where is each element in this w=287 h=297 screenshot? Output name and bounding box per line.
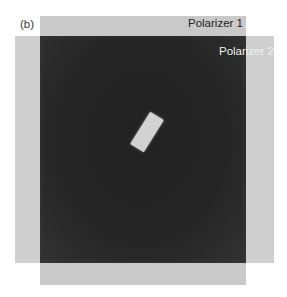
crossed-polarizers-figure: (b) Polarizer 1 Polarizer 2 (0, 0, 287, 297)
polarizer-1-label: Polarizer 1 (188, 17, 243, 29)
panel-label: (b) (20, 18, 34, 30)
polarizer-2-label: Polarizer 2 (219, 45, 274, 57)
